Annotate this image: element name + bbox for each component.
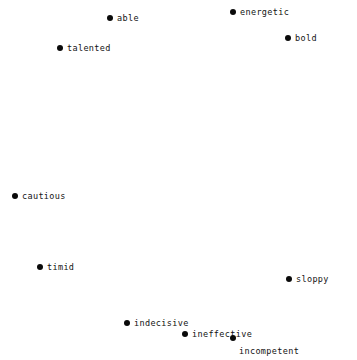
scatter-point-marker: [57, 45, 63, 51]
scatter-point-marker: [124, 320, 130, 326]
scatter-point-label: ineffective: [192, 330, 252, 339]
scatter-point-label: energetic: [240, 8, 289, 17]
scatter-point-label: incompetent: [239, 347, 299, 356]
scatter-point-marker: [285, 35, 291, 41]
scatter-point-marker: [107, 15, 113, 21]
scatter-point-label: bold: [295, 34, 317, 43]
scatter-point-label: timid: [47, 263, 74, 272]
scatter-point-label: cautious: [22, 192, 66, 201]
scatter-point-label: able: [117, 14, 139, 23]
scatter-point-label: talented: [67, 44, 111, 53]
scatter-point-marker: [182, 331, 188, 337]
scatter-point-label: sloppy: [296, 275, 329, 284]
scatter-plot-canvas: ableenergeticboldtalentedcautioustimidsl…: [0, 0, 357, 360]
scatter-point-marker: [286, 276, 292, 282]
scatter-point-marker: [12, 193, 18, 199]
scatter-point-marker: [230, 9, 236, 15]
scatter-point-marker: [37, 264, 43, 270]
scatter-point-label: indecisive: [134, 319, 189, 328]
scatter-point-marker: [230, 335, 236, 341]
